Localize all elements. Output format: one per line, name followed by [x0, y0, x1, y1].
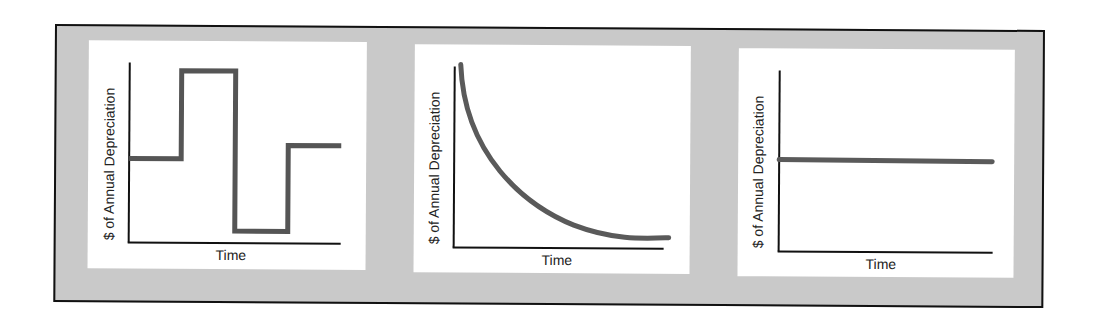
constant-series-line	[779, 159, 992, 161]
x-axis-label: Time	[542, 252, 573, 268]
y-axis	[454, 66, 455, 247]
panel-variable: $ of Annual Depreciation Time	[88, 40, 367, 270]
y-axis-label: $ of Annual Depreciation	[426, 92, 443, 245]
step-series-line	[129, 70, 342, 231]
y-axis	[129, 62, 130, 242]
panel-straight-line: $ of Annual Depreciation Time	[737, 48, 1014, 278]
chart-straight-line	[737, 48, 1014, 278]
panel-declining: $ of Annual Depreciation Time	[413, 44, 690, 274]
x-axis	[453, 247, 664, 248]
x-axis-label: Time	[866, 256, 897, 272]
y-axis-label: $ of Annual Depreciation	[101, 88, 118, 241]
chart-variable	[88, 40, 367, 270]
x-axis	[778, 251, 993, 252]
figure-frame: $ of Annual Depreciation Time $ of Annua…	[53, 24, 1045, 308]
y-axis-label: $ of Annual Depreciation	[750, 96, 767, 249]
x-axis	[128, 242, 341, 243]
chart-declining	[413, 44, 690, 274]
declining-series-line	[460, 64, 670, 238]
x-axis-label: Time	[216, 247, 247, 263]
